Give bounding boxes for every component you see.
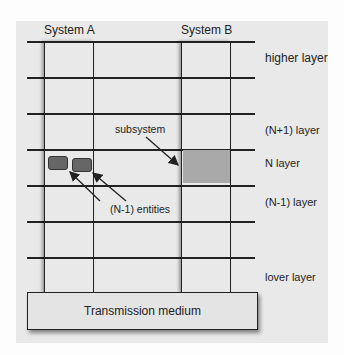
subsystem-arrow — [146, 137, 178, 165]
entity-arrow — [70, 172, 100, 201]
entity-arrow — [93, 173, 126, 201]
entities-label: (N-1) entities — [110, 203, 170, 215]
layer-label-lower: lover layer — [265, 271, 316, 283]
layer-label-n-plus-1: (N+1) layer — [265, 124, 320, 136]
layer-label-n: N layer — [265, 157, 300, 169]
subsystem-label: subsystem — [115, 123, 165, 135]
layer-label-higher: higher layer — [265, 51, 328, 65]
transmission-medium: Transmission medium — [27, 292, 258, 330]
transmission-medium-label: Transmission medium — [84, 304, 201, 318]
layer-label-n-minus-1: (N-1) layer — [265, 196, 317, 208]
